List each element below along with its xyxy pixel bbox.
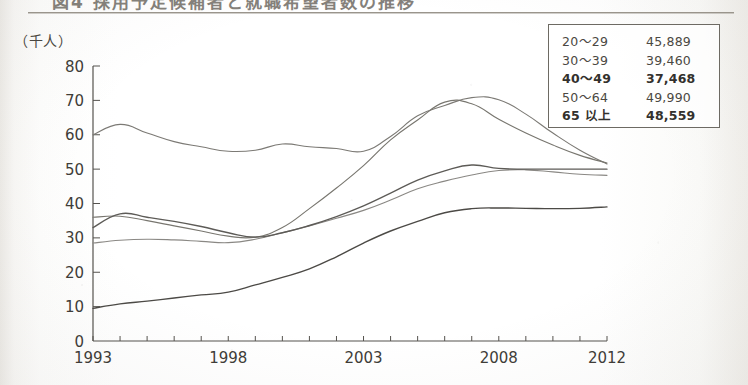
series-line-4	[93, 165, 607, 237]
y-axis-tick-label: 0	[74, 333, 84, 351]
line-chart: 01020304050607080 19931998200320082012	[0, 0, 748, 385]
y-axis-tick-label: 50	[65, 161, 84, 179]
x-axis-tick-label: 2008	[480, 349, 518, 367]
chart-series-group	[93, 97, 607, 309]
y-axis-tick-label: 40	[65, 195, 84, 213]
x-axis-tick-label: 2003	[344, 349, 382, 367]
x-axis-tick-label: 2012	[588, 349, 626, 367]
x-axis-tick-label: 1998	[209, 349, 247, 367]
y-axis-tick-labels: 01020304050607080	[65, 58, 84, 351]
y-axis-tick-label: 20	[65, 264, 84, 282]
y-axis-tick-label: 80	[65, 58, 84, 76]
x-axis-tick-marks	[93, 336, 607, 341]
chart-canvas: 01020304050607080 19931998200320082012	[0, 0, 748, 385]
series-line-1	[93, 97, 607, 164]
scanned-page: 図4 採用予定候補者と就職希望者数の推移 （千人） 20〜29 45,889 3…	[0, 0, 748, 385]
series-line-5	[93, 207, 607, 308]
y-axis-tick-label: 70	[65, 92, 84, 110]
series-line-2	[93, 170, 607, 243]
y-axis-tick-marks	[93, 66, 100, 307]
y-axis-tick-label: 30	[65, 229, 84, 247]
y-axis-tick-label: 10	[65, 298, 84, 316]
y-axis-tick-label: 60	[65, 126, 84, 144]
x-axis-tick-labels: 19931998200320082012	[74, 349, 626, 367]
x-axis-tick-label: 1993	[74, 349, 112, 367]
